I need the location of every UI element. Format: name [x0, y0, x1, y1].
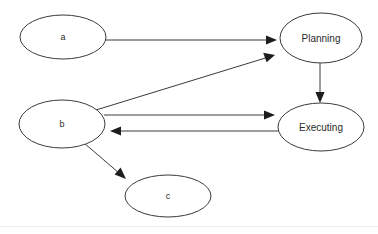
node-c[interactable]: c [125, 175, 211, 217]
node-c-label: c [166, 191, 171, 201]
node-a-label: a [60, 32, 65, 42]
edge-executing-to-b [110, 126, 281, 135]
edge-b-to-planning [96, 53, 275, 110]
node-b-label: b [59, 119, 64, 129]
edge-planning-to-executing [315, 62, 324, 103]
edge-b-to-c [84, 143, 126, 179]
edge-a-to-planning [106, 35, 277, 44]
graph-svg: a Planning b Executing c [0, 0, 378, 234]
edge-b-to-executing [104, 110, 275, 119]
node-a[interactable]: a [20, 15, 106, 59]
footer-divider [0, 226, 378, 227]
node-planning[interactable]: Planning [280, 13, 362, 63]
node-executing-label: Executing [299, 122, 343, 133]
node-planning-label: Planning [302, 33, 341, 44]
node-b[interactable]: b [19, 100, 105, 148]
edge-layer [84, 35, 325, 179]
node-executing[interactable]: Executing [278, 103, 364, 151]
diagram-canvas: a Planning b Executing c [0, 0, 378, 234]
